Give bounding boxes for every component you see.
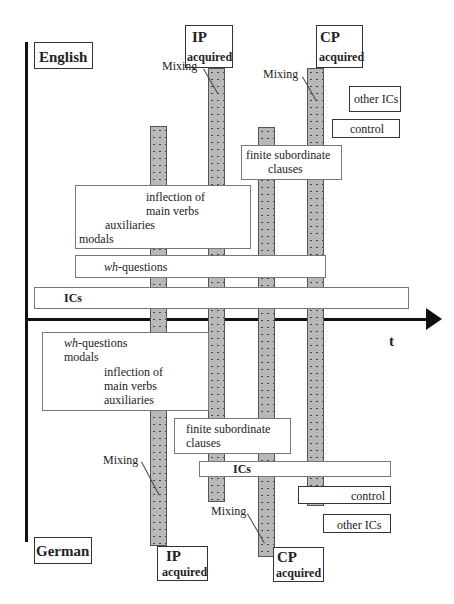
- english-wh-questions: wh-questions: [75, 255, 326, 278]
- german-ics: ICs: [199, 461, 391, 477]
- german-mixing-label-2: Mixing: [211, 504, 246, 518]
- english-mixing-label-2: Mixing: [263, 67, 298, 81]
- ip-title: IP: [166, 548, 181, 565]
- german-wh-modals-inflection: wh-questions modals inflection of main v…: [42, 332, 209, 411]
- cp-title: CP: [277, 549, 297, 566]
- time-axis-label: t: [389, 333, 394, 350]
- german-control: control: [298, 486, 391, 504]
- ip-title: IP: [192, 29, 207, 46]
- language-label-german: German: [34, 537, 92, 564]
- wh-rest: -questions: [78, 336, 127, 350]
- german-mixing-label-1: Mixing: [103, 453, 138, 467]
- german-other-ics: other ICs: [323, 514, 391, 533]
- cp-sub: acquired: [276, 566, 321, 580]
- ics-text: ICs: [64, 291, 82, 305]
- time-axis-arrowhead-icon: [426, 308, 442, 330]
- wh-italic: wh: [64, 336, 78, 350]
- finite-line2: clauses: [186, 436, 221, 450]
- german-inflection-line3: auxiliaries: [104, 393, 154, 407]
- language-acquisition-diagram: t English IP acquired CP acquired Mixing…: [0, 0, 454, 604]
- german-inflection-line1: inflection of: [104, 365, 163, 379]
- german-ip-acquired: IP acquired: [157, 546, 208, 581]
- english-mixing-label-1: Mixing: [162, 59, 197, 73]
- english-ics: ICs: [34, 287, 409, 309]
- inflection-line3: auxiliaries: [105, 218, 155, 232]
- english-finite-subordinate-clauses: finite subordinate clauses: [241, 145, 342, 180]
- wh-rest: -questions: [118, 260, 167, 274]
- english-control: control: [332, 119, 400, 138]
- german-modals: modals: [64, 350, 99, 364]
- inflection-line4: modals: [79, 232, 114, 246]
- finite-line1: finite subordinate: [246, 148, 330, 162]
- wh-italic: wh: [104, 260, 118, 274]
- english-cp-acquired: CP acquired: [316, 25, 363, 68]
- language-label-english: English: [34, 42, 93, 69]
- ip-sub: acquired: [162, 565, 207, 579]
- wh-questions-text: wh-questions: [104, 260, 167, 274]
- ics-text: ICs: [233, 462, 251, 476]
- vertical-axis: [25, 42, 28, 542]
- german-cp-acquired: CP acquired: [273, 547, 324, 582]
- inflection-line2: main verbs: [146, 204, 199, 218]
- german-inflection-line2: main verbs: [104, 379, 157, 393]
- bar-cp-english: [258, 127, 275, 557]
- inflection-line1: inflection of: [146, 190, 205, 204]
- time-axis: [25, 318, 428, 321]
- german-wh-text: wh-questions: [64, 336, 127, 350]
- cp-sub: acquired: [319, 50, 364, 64]
- english-other-ics: other ICs: [349, 86, 401, 112]
- cp-title: CP: [320, 29, 340, 46]
- english-inflection-auxiliaries-modals: inflection of main verbs auxiliaries mod…: [75, 185, 251, 249]
- german-finite-subordinate-clauses: finite subordinate clauses: [174, 418, 291, 454]
- finite-line2: clauses: [268, 162, 303, 176]
- finite-line1: finite subordinate: [186, 422, 270, 436]
